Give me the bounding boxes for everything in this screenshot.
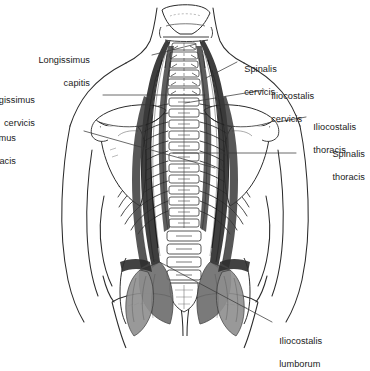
label-line: cervicis bbox=[271, 114, 302, 124]
label-line: Longissimus bbox=[38, 55, 90, 65]
label-iliocostalis-lumborum: Iliocostalis lumborum bbox=[274, 325, 322, 371]
label-longissimus-thoracis: Longissimus thoracis bbox=[0, 122, 16, 168]
label-line: Longissimus bbox=[0, 133, 16, 143]
label-line: Iliocostalis bbox=[279, 336, 322, 346]
label-line: Longissimus bbox=[0, 95, 35, 105]
label-line: Iliocostalis bbox=[271, 91, 314, 101]
label-line: thoracis bbox=[0, 156, 16, 166]
label-line: Spinalis bbox=[332, 149, 365, 159]
label-line: Spinalis bbox=[244, 64, 277, 74]
label-line: thoracis bbox=[332, 172, 365, 182]
label-iliocostalis-cervicis: Iliocostalis cervicis bbox=[266, 80, 314, 126]
label-longissimus-capitis: Longissimus capitis bbox=[28, 44, 90, 90]
label-line: capitis bbox=[64, 78, 90, 88]
label-line: Iliocostalis bbox=[313, 122, 356, 132]
label-line: lumborum bbox=[279, 359, 320, 369]
label-spinalis-thoracis: Spinalis thoracis bbox=[305, 138, 365, 184]
